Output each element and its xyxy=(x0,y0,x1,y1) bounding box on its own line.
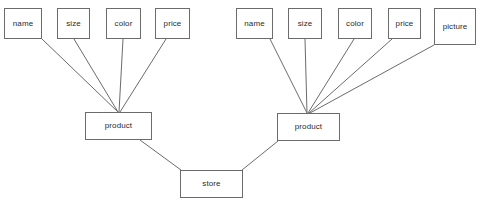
node-r-product[interactable]: product xyxy=(277,113,340,141)
node-l-price[interactable]: price xyxy=(155,8,190,39)
edge-l-product-to-store xyxy=(140,140,181,170)
node-label-r-color: color xyxy=(346,20,364,28)
node-l-size[interactable]: size xyxy=(57,8,90,39)
node-r-picture[interactable]: picture xyxy=(434,8,476,45)
edge-l-name-to-l-product xyxy=(42,39,118,112)
node-label-l-name: name xyxy=(13,20,33,28)
node-label-r-picture: picture xyxy=(443,23,468,31)
node-label-r-size: size xyxy=(298,20,313,28)
node-label-l-color: color xyxy=(115,20,133,28)
node-l-color[interactable]: color xyxy=(106,8,141,39)
node-r-size[interactable]: size xyxy=(288,8,322,39)
node-l-product[interactable]: product xyxy=(85,112,152,140)
node-label-l-price: price xyxy=(164,20,182,28)
edge-r-picture-to-r-product xyxy=(310,45,434,113)
edge-r-product-to-store xyxy=(242,141,278,170)
edge-r-price-to-r-product xyxy=(309,39,392,113)
node-label-store: store xyxy=(202,180,220,188)
node-label-r-price: price xyxy=(396,20,414,28)
edge-l-price-to-l-product xyxy=(120,39,166,112)
edge-r-name-to-r-product xyxy=(270,39,307,113)
edge-r-color-to-r-product xyxy=(308,39,354,113)
node-l-name[interactable]: name xyxy=(4,8,42,39)
node-label-l-size: size xyxy=(66,20,81,28)
edge-l-color-to-l-product xyxy=(119,39,123,112)
diagram-canvas: namesizecolorpricenamesizecolorpricepict… xyxy=(0,0,483,205)
node-label-l-product: product xyxy=(105,122,132,130)
node-r-name[interactable]: name xyxy=(236,8,273,39)
node-label-r-name: name xyxy=(244,20,264,28)
edge-r-size-to-r-product xyxy=(305,39,307,113)
node-r-color[interactable]: color xyxy=(338,8,372,39)
edge-l-size-to-l-product xyxy=(74,39,118,112)
node-r-price[interactable]: price xyxy=(388,8,421,39)
node-label-r-product: product xyxy=(295,123,322,131)
node-store[interactable]: store xyxy=(180,170,243,198)
